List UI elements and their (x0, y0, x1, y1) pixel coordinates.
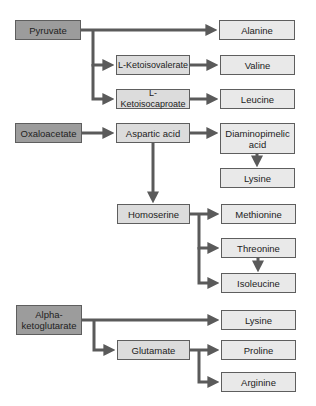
node-leucine: Leucine (220, 89, 295, 109)
node-l-ketoisovalerate: L-Ketoisovalerate (116, 55, 190, 75)
node-diaminopimelic-acid: Diaminopimelic acid (220, 123, 295, 154)
node-arginine: Arginine (221, 372, 296, 392)
node-homoserine: Homoserine (117, 204, 190, 224)
amino-acid-biosynthesis-diagram: Pyruvate Alanine L-Ketoisovalerate Valin… (0, 0, 316, 406)
node-proline: Proline (221, 340, 296, 360)
node-aspartic-acid: Aspartic acid (116, 123, 190, 143)
node-oxaloacetate: Oxaloacetate (15, 123, 82, 143)
node-lysine-from-alpha-ketoglutarate: Lysine (221, 310, 296, 330)
node-alpha-ketoglutarate: Alpha-ketoglutarate (16, 305, 82, 335)
arrow-pyruvate-ketoisocaproate (93, 64, 109, 99)
node-threonine: Threonine (221, 238, 296, 258)
node-lysine-from-diaminopimelic: Lysine (220, 168, 295, 188)
arrow-glutamate-arginine (199, 350, 214, 382)
node-l-ketoisocaproate: L-Ketoisocaproate (116, 89, 190, 109)
arrow-homoserine-isoleucine (199, 247, 214, 283)
arrow-pyruvate-ketoisovalerate (93, 30, 109, 65)
node-alanine: Alanine (219, 20, 295, 40)
arrow-alphaketoglutarate-glutamate (94, 320, 110, 350)
node-methionine: Methionine (221, 204, 296, 224)
node-glutamate: Glutamate (117, 340, 190, 360)
node-isoleucine: Isoleucine (221, 273, 296, 293)
arrow-homoserine-threonine (199, 214, 214, 248)
node-valine: Valine (220, 55, 295, 75)
node-pyruvate: Pyruvate (15, 20, 81, 40)
